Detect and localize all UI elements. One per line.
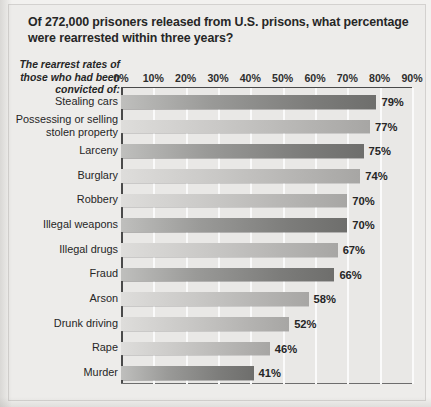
bar-value-label: 41% — [259, 367, 281, 379]
bar-row: 41% — [121, 366, 412, 380]
bar-row: 66% — [121, 268, 412, 282]
bar-row: 77% — [121, 120, 412, 134]
chart-page: Of 272,000 prisoners released from U.S. … — [0, 0, 431, 407]
bar-row: 70% — [121, 194, 412, 208]
category-label: Burglary — [6, 169, 118, 181]
bar-value-label: 52% — [294, 318, 316, 330]
bar-row: 58% — [121, 292, 412, 306]
category-label: Murder — [6, 366, 118, 378]
bar-row: 70% — [121, 218, 412, 232]
category-label-line: Possessing or selling — [6, 113, 118, 125]
bar-value-label: 58% — [314, 293, 336, 305]
bar[interactable] — [121, 169, 360, 183]
bar-value-label: 70% — [352, 219, 374, 231]
bar[interactable] — [121, 317, 289, 331]
category-label: Stealing cars — [6, 95, 118, 107]
x-tick-label: 90% — [392, 72, 431, 84]
bar[interactable] — [121, 342, 270, 356]
bar-row: 75% — [121, 144, 412, 158]
category-label: Drunk driving — [6, 317, 118, 329]
bar[interactable] — [121, 218, 347, 232]
category-label: Robbery — [6, 193, 118, 205]
bar[interactable] — [121, 292, 309, 306]
x-axis-line — [121, 383, 412, 384]
category-label: Fraud — [6, 267, 118, 279]
bar-value-label: 77% — [375, 121, 397, 133]
category-label: Larceny — [6, 144, 118, 156]
bar[interactable] — [121, 95, 376, 109]
category-label-line: Arson — [6, 292, 118, 304]
bar[interactable] — [121, 144, 364, 158]
bar-row: 67% — [121, 243, 412, 257]
category-label-line: stolen property — [6, 126, 118, 138]
bar-row: 52% — [121, 317, 412, 331]
bar[interactable] — [121, 243, 338, 257]
category-label-line: Illegal weapons — [6, 218, 118, 230]
category-label-line: Larceny — [6, 144, 118, 156]
category-label-line: Stealing cars — [6, 95, 118, 107]
x-axis-tick-labels: 0%10%20%30%40%50%60%70%80%90% — [121, 72, 412, 86]
gridline — [412, 88, 414, 384]
category-label-line: Burglary — [6, 169, 118, 181]
category-label-line: Rape — [6, 341, 118, 353]
bar[interactable] — [121, 268, 334, 282]
category-label: Illegal weapons — [6, 218, 118, 230]
bar-row: 74% — [121, 169, 412, 183]
category-label: Illegal drugs — [6, 243, 118, 255]
bar-value-label: 74% — [365, 170, 387, 182]
category-label: Arson — [6, 292, 118, 304]
category-label-column: Stealing carsPossessing or sellingstolen… — [4, 87, 118, 383]
category-label: Possessing or sellingstolen property — [6, 113, 118, 138]
bar-value-label: 70% — [352, 195, 374, 207]
bar-row: 46% — [121, 342, 412, 356]
plot-area: 79%77%75%74%70%70%67%66%58%52%46%41% — [121, 87, 412, 384]
bar-row: 79% — [121, 95, 412, 109]
bar[interactable] — [121, 366, 254, 380]
bar-value-label: 67% — [343, 244, 365, 256]
category-label-line: Fraud — [6, 267, 118, 279]
bar[interactable] — [121, 194, 347, 208]
bar-value-label: 66% — [339, 269, 361, 281]
bar-value-label: 46% — [275, 343, 297, 355]
category-label-line: Illegal drugs — [6, 243, 118, 255]
bar-value-label: 79% — [381, 96, 403, 108]
category-label-line: Robbery — [6, 193, 118, 205]
category-label-line: Murder — [6, 366, 118, 378]
category-label: Rape — [6, 341, 118, 353]
chart-title: Of 272,000 prisoners released from U.S. … — [28, 15, 413, 46]
bar[interactable] — [121, 120, 370, 134]
category-label-line: Drunk driving — [6, 317, 118, 329]
bar-value-label: 75% — [369, 145, 391, 157]
